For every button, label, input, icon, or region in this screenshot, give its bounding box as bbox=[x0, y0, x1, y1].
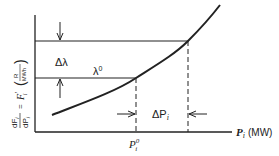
svg-text:R: R bbox=[13, 73, 19, 78]
lambda-zero-label: λ0 bbox=[93, 65, 103, 77]
delta-lambda-label: Δλ bbox=[55, 56, 68, 68]
delta-p-label: ΔPi bbox=[152, 108, 169, 122]
svg-text:dFi: dFi bbox=[10, 117, 20, 128]
incremental-cost-diagram: Δλ λ0 ΔPi P0i Pi(MW) dFi dPi = F′i ( R M… bbox=[0, 0, 279, 156]
svg-text:=: = bbox=[16, 104, 25, 109]
p-zero-label: P0i bbox=[128, 137, 140, 153]
y-axis-label: dFi dPi = F′i ( R MWh ) bbox=[10, 59, 31, 128]
svg-text:F′i: F′i bbox=[14, 92, 28, 101]
x-axis-label: Pi(MW) bbox=[236, 126, 272, 140]
svg-text:dPi: dPi bbox=[21, 116, 31, 128]
svg-text:MWh: MWh bbox=[21, 68, 27, 81]
svg-text:): ) bbox=[12, 59, 28, 64]
